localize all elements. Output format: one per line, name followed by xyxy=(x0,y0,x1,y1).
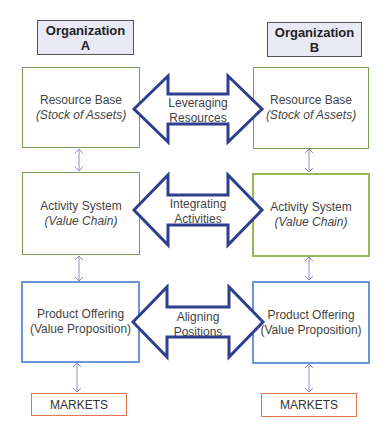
activity-system-title: Activity System xyxy=(40,199,121,214)
vertical-double-arrow-icon xyxy=(70,362,84,393)
org-b-markets-box: MARKETS xyxy=(261,393,357,417)
link-line2: Positions xyxy=(158,325,238,340)
org-b-resource-base-box: Resource Base (Stock of Assets) xyxy=(253,67,369,149)
resource-base-subtitle: (Stock of Assets) xyxy=(266,108,356,123)
link-line1: Integrating xyxy=(158,197,238,212)
integrating-activities-label: Integrating Activities xyxy=(158,197,238,227)
org-a-resource-base-box: Resource Base (Stock of Assets) xyxy=(22,67,140,148)
org-a-line1: Organization xyxy=(46,23,125,38)
vertical-double-arrow-icon xyxy=(302,148,316,173)
resource-base-subtitle: (Stock of Assets) xyxy=(36,108,126,123)
organization-b-header: Organization B xyxy=(267,22,362,57)
vertical-double-arrow-icon xyxy=(302,363,316,393)
org-a-product-offering-box: Product Offering (Value Proposition) xyxy=(21,281,140,363)
product-offering-subtitle: (Value Proposition) xyxy=(30,322,131,337)
organization-a-header: Organization A xyxy=(37,20,134,55)
org-b-line1: Organization xyxy=(275,25,354,40)
link-line2: Resources xyxy=(158,111,238,126)
activity-system-title: Activity System xyxy=(270,200,351,215)
markets-label: MARKETS xyxy=(50,398,108,412)
vertical-double-arrow-icon xyxy=(72,148,86,172)
org-b-activity-system-box: Activity System (Value Chain) xyxy=(252,173,370,257)
product-offering-title: Product Offering xyxy=(267,308,354,323)
vertical-double-arrow-icon xyxy=(302,256,316,281)
resource-base-title: Resource Base xyxy=(40,93,122,108)
activity-system-subtitle: (Value Chain) xyxy=(275,215,348,230)
leveraging-resources-label: Leveraging Resources xyxy=(158,96,238,126)
org-b-product-offering-box: Product Offering (Value Proposition) xyxy=(252,281,370,364)
link-line1: Aligning xyxy=(158,310,238,325)
product-offering-subtitle: (Value Proposition) xyxy=(260,323,361,338)
org-b-line2: B xyxy=(310,40,319,55)
link-line2: Activities xyxy=(158,212,238,227)
vertical-double-arrow-icon xyxy=(72,255,86,282)
org-a-activity-system-box: Activity System (Value Chain) xyxy=(22,172,140,255)
link-line1: Leveraging xyxy=(158,96,238,111)
resource-base-title: Resource Base xyxy=(270,93,352,108)
org-a-markets-box: MARKETS xyxy=(31,393,127,416)
markets-label: MARKETS xyxy=(280,398,338,412)
aligning-positions-label: Aligning Positions xyxy=(158,310,238,340)
org-a-line2: A xyxy=(81,38,90,53)
activity-system-subtitle: (Value Chain) xyxy=(45,214,118,229)
product-offering-title: Product Offering xyxy=(37,307,124,322)
